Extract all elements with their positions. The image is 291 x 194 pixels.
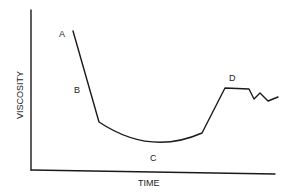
label-d: D [229,73,236,83]
viscosity-curve [73,31,278,142]
label-a: A [59,29,65,39]
label-b: B [74,85,80,95]
x-axis [31,170,275,174]
label-c: C [150,153,157,163]
y-axis-label: VISCOSITY [15,71,25,119]
x-axis-label: TIME [138,178,160,188]
chart: A B C D TIME VISCOSITY [0,0,291,194]
